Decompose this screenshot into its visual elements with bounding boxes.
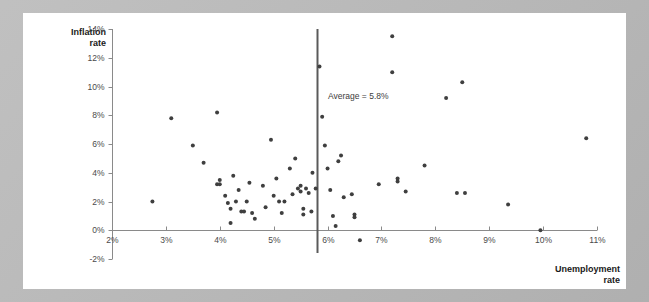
data-point: [237, 188, 241, 192]
data-points-group: [150, 34, 588, 242]
data-point: [317, 64, 321, 68]
data-point: [280, 211, 284, 215]
data-point: [323, 143, 327, 147]
data-point: [328, 188, 332, 192]
data-point: [191, 143, 195, 147]
data-point: [229, 221, 233, 225]
y-tick-label: 14%: [71, 24, 105, 34]
data-point: [291, 192, 295, 196]
tick-marks: [109, 30, 598, 260]
data-point: [269, 138, 273, 142]
y-tick-label: 12%: [71, 53, 105, 63]
figure-frame: Inflation rate Unemployment rate Average…: [0, 0, 649, 302]
data-point: [460, 80, 464, 84]
data-point: [229, 207, 233, 211]
data-point: [282, 200, 286, 204]
data-point: [342, 195, 346, 199]
data-point: [309, 210, 313, 214]
data-point: [288, 166, 292, 170]
data-point: [377, 182, 381, 186]
x-tick-label: 4%: [206, 235, 236, 245]
data-point: [444, 96, 448, 100]
data-point: [326, 166, 330, 170]
data-point: [336, 159, 340, 163]
data-point: [339, 154, 343, 158]
data-point: [223, 194, 227, 198]
data-point: [320, 115, 324, 119]
data-point: [310, 171, 314, 175]
x-tick-label: 3%: [152, 235, 182, 245]
data-point: [169, 116, 173, 120]
data-point: [150, 200, 154, 204]
data-point: [538, 228, 542, 232]
scatter-plot: [23, 13, 626, 289]
data-point: [299, 184, 303, 188]
data-point: [301, 212, 305, 216]
data-point: [261, 184, 265, 188]
data-point: [455, 191, 459, 195]
data-point: [314, 187, 318, 191]
data-point: [202, 161, 206, 165]
x-tick-label: 11%: [583, 235, 613, 245]
data-point: [331, 214, 335, 218]
data-point: [463, 191, 467, 195]
data-point: [253, 217, 257, 221]
data-point: [301, 207, 305, 211]
y-tick-label: 4%: [71, 168, 105, 178]
data-point: [264, 205, 268, 209]
data-point: [274, 177, 278, 181]
data-point: [293, 156, 297, 160]
axis-lines: [113, 29, 598, 259]
y-tick-label: -2%: [71, 254, 105, 264]
data-point: [215, 110, 219, 114]
data-point: [231, 174, 235, 178]
data-point: [299, 189, 303, 193]
data-point: [396, 179, 400, 183]
data-point: [423, 164, 427, 168]
data-point: [272, 194, 276, 198]
data-point: [350, 192, 354, 196]
x-tick-label: 9%: [475, 235, 505, 245]
data-point: [218, 182, 222, 186]
x-tick-label: 2%: [98, 235, 128, 245]
data-point: [245, 200, 249, 204]
chart-panel: Inflation rate Unemployment rate Average…: [23, 13, 626, 289]
x-tick-label: 10%: [529, 235, 559, 245]
data-point: [242, 210, 246, 214]
x-tick-label: 6%: [314, 235, 344, 245]
data-point: [404, 189, 408, 193]
y-tick-label: 10%: [71, 82, 105, 92]
data-point: [506, 202, 510, 206]
data-point: [584, 136, 588, 140]
y-tick-label: 0%: [71, 225, 105, 235]
data-point: [304, 187, 308, 191]
data-point: [390, 34, 394, 38]
data-point: [247, 181, 251, 185]
data-point: [334, 224, 338, 228]
x-tick-label: 8%: [421, 235, 451, 245]
data-point: [307, 191, 311, 195]
y-tick-label: 8%: [71, 110, 105, 120]
data-point: [277, 200, 281, 204]
data-point: [234, 200, 238, 204]
x-tick-label: 7%: [367, 235, 397, 245]
x-tick-label: 5%: [260, 235, 290, 245]
data-point: [390, 70, 394, 74]
data-point: [358, 238, 362, 242]
data-point: [250, 211, 254, 215]
data-point: [226, 201, 230, 205]
y-tick-label: 2%: [71, 197, 105, 207]
data-point: [353, 215, 357, 219]
data-point: [218, 178, 222, 182]
y-tick-label: 6%: [71, 139, 105, 149]
